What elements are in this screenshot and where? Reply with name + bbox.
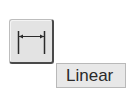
linear-dimension-icon [10, 20, 53, 63]
linear-dimension-button[interactable] [9, 19, 54, 64]
tooltip: Linear [56, 63, 126, 88]
